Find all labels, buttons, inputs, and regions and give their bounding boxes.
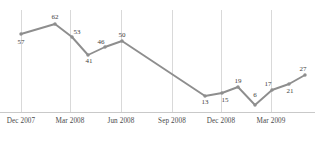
data-point-label: 62 xyxy=(46,13,64,21)
x-axis-tick-label: Mar 2008 xyxy=(41,117,99,126)
data-point-label: 57 xyxy=(12,38,30,46)
data-point-label: 41 xyxy=(80,57,98,65)
line-chart: Dec 2007Mar 2008Jun 2008Sep 2008Dec 2008… xyxy=(0,0,315,146)
data-point-marker xyxy=(19,32,22,35)
data-point-marker xyxy=(303,73,306,76)
data-point-marker xyxy=(253,103,256,106)
data-point-label: 6 xyxy=(246,91,264,99)
data-point-label: 46 xyxy=(92,38,110,46)
data-point-marker xyxy=(120,39,123,42)
data-point-label: 53 xyxy=(68,28,86,36)
data-point-label: 17 xyxy=(259,80,277,88)
gridlines xyxy=(22,10,272,112)
data-point-label: 21 xyxy=(281,87,299,95)
data-point-marker xyxy=(236,85,239,88)
data-point-label: 27 xyxy=(294,65,312,73)
data-point-label: 19 xyxy=(229,77,247,85)
data-point-marker xyxy=(270,88,273,91)
data-point-marker xyxy=(53,22,56,25)
x-axis-tick-label: Mar 2009 xyxy=(242,117,300,126)
data-point-marker xyxy=(220,91,223,94)
data-point-label: 15 xyxy=(216,96,234,104)
data-point-label: 13 xyxy=(196,98,214,106)
data-point-marker xyxy=(287,82,290,85)
x-axis-tick-label: Jun 2008 xyxy=(92,117,150,126)
data-point-label: 50 xyxy=(113,31,131,39)
